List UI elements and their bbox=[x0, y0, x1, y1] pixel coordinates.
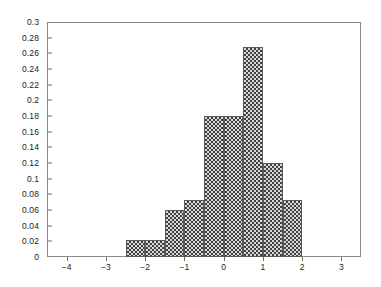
x-tick-mark bbox=[302, 257, 303, 261]
x-tick-mark bbox=[67, 257, 68, 261]
x-axis: −4−3−2−10123 bbox=[0, 0, 381, 287]
x-tick-mark bbox=[106, 257, 107, 261]
x-tick-label: −2 bbox=[140, 262, 150, 272]
x-tick-mark bbox=[184, 257, 185, 261]
x-tick-label: 0 bbox=[221, 262, 226, 272]
x-tick-label: 3 bbox=[339, 262, 344, 272]
histogram-chart: 00.020.040.060.080.10.120.140.160.180.20… bbox=[0, 0, 381, 287]
x-tick-mark bbox=[263, 257, 264, 261]
x-tick-label: 1 bbox=[260, 262, 265, 272]
x-tick-mark bbox=[145, 257, 146, 261]
x-tick-label: −1 bbox=[179, 262, 189, 272]
x-tick-mark bbox=[341, 257, 342, 261]
x-tick-mark bbox=[224, 257, 225, 261]
x-tick-label: −3 bbox=[101, 262, 111, 272]
x-tick-label: 2 bbox=[300, 262, 305, 272]
x-tick-label: −4 bbox=[62, 262, 72, 272]
